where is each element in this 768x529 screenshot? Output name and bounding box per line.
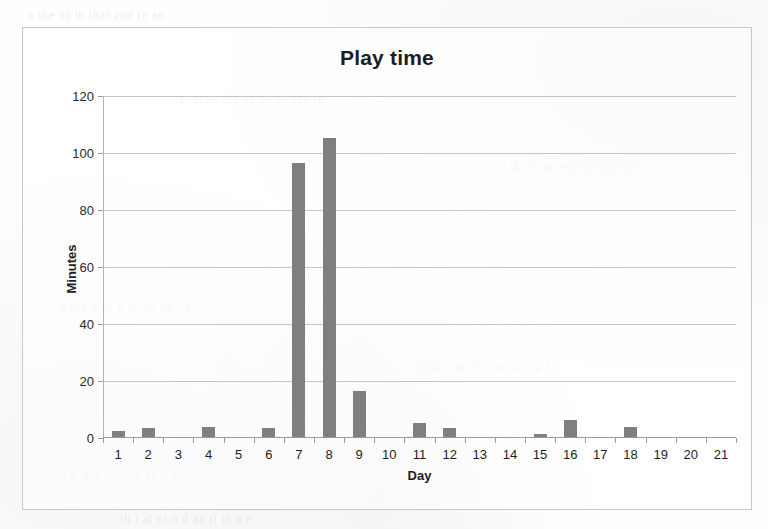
y-axis-tick-mark: [98, 96, 103, 97]
x-axis-tick-mark: [374, 438, 375, 443]
gridline: [103, 210, 736, 211]
bar[interactable]: [564, 420, 577, 437]
y-axis-label: Minutes: [64, 244, 79, 293]
x-axis-tick-label: 16: [563, 447, 577, 462]
bar[interactable]: [323, 138, 336, 437]
y-axis-tick-label: 120: [72, 89, 94, 104]
x-axis-tick-mark: [465, 438, 466, 443]
x-axis-tick-mark: [224, 438, 225, 443]
x-axis-tick-label: 11: [413, 447, 427, 462]
x-axis-tick-mark: [646, 438, 647, 443]
x-axis-tick-label: 12: [442, 447, 456, 462]
x-axis-tick-mark: [555, 438, 556, 443]
gridline: [103, 96, 736, 97]
x-axis-tick-mark: [314, 438, 315, 443]
gridline: [103, 381, 736, 382]
x-axis-tick-mark: [254, 438, 255, 443]
bar[interactable]: [413, 423, 426, 437]
x-axis-tick-label: 20: [684, 447, 698, 462]
bar[interactable]: [292, 163, 305, 437]
y-axis-tick-label: 40: [80, 317, 94, 332]
x-axis-tick-mark: [344, 438, 345, 443]
gridline: [103, 324, 736, 325]
bar[interactable]: [443, 428, 456, 437]
y-axis-tick-mark: [98, 267, 103, 268]
x-axis-tick-mark: [676, 438, 677, 443]
x-axis-tick-label: 19: [653, 447, 667, 462]
x-axis-tick-mark: [585, 438, 586, 443]
bar[interactable]: [624, 427, 637, 437]
chart-title: Play time: [23, 46, 751, 70]
x-axis-tick-label: 21: [714, 447, 728, 462]
x-axis-tick-label: 6: [265, 447, 272, 462]
y-axis-tick-label: 60: [80, 260, 94, 275]
gridline: [103, 153, 736, 154]
y-axis-tick-label: 20: [80, 374, 94, 389]
x-axis-line: [103, 437, 736, 438]
x-axis-tick-mark: [193, 438, 194, 443]
plot-area: 020406080100120 123456789101112131415161…: [103, 96, 736, 438]
y-axis-tick-mark: [98, 381, 103, 382]
x-axis-tick-label: 10: [382, 447, 396, 462]
bar[interactable]: [142, 428, 155, 437]
bar[interactable]: [534, 434, 547, 437]
x-axis-tick-label: 14: [503, 447, 517, 462]
bar[interactable]: [202, 427, 215, 437]
x-axis-tick-mark: [163, 438, 164, 443]
x-axis-tick-mark: [133, 438, 134, 443]
x-axis-tick-label: 9: [356, 447, 363, 462]
y-axis-tick-label: 100: [72, 146, 94, 161]
bar[interactable]: [112, 431, 125, 437]
bar[interactable]: [353, 391, 366, 437]
chart-frame: Play time Minutes 020406080100120 123456…: [22, 27, 752, 510]
y-axis-tick-mark: [98, 324, 103, 325]
x-axis-tick-label: 8: [325, 447, 332, 462]
x-axis-tick-mark: [103, 438, 104, 443]
scan-ghost-text: th i al ni o d an ti in a e: [120, 512, 252, 527]
scan-ghost-text: a the of in that and re an: [28, 8, 165, 23]
x-axis-tick-mark: [525, 438, 526, 443]
x-axis-tick-label: 13: [473, 447, 487, 462]
y-axis-tick-label: 0: [87, 431, 94, 446]
y-axis-tick-mark: [98, 210, 103, 211]
x-axis-tick-label: 2: [145, 447, 152, 462]
x-axis-label: Day: [103, 468, 736, 483]
x-axis-tick-label: 7: [295, 447, 302, 462]
x-axis-tick-mark: [404, 438, 405, 443]
x-axis-tick-label: 15: [533, 447, 547, 462]
x-axis-tick-label: 5: [235, 447, 242, 462]
gridline: [103, 267, 736, 268]
x-axis-tick-label: 3: [175, 447, 182, 462]
y-axis-tick-label: 80: [80, 203, 94, 218]
y-axis-tick-mark: [98, 153, 103, 154]
x-axis-tick-label: 18: [623, 447, 637, 462]
x-axis-tick-label: 17: [593, 447, 607, 462]
x-axis-tick-mark: [495, 438, 496, 443]
x-axis-tick-label: 1: [114, 447, 121, 462]
x-axis-tick-mark: [706, 438, 707, 443]
bar[interactable]: [262, 428, 275, 437]
x-axis-tick-mark: [736, 438, 737, 443]
x-axis-tick-mark: [284, 438, 285, 443]
x-axis-tick-label: 4: [205, 447, 212, 462]
x-axis-tick-mark: [615, 438, 616, 443]
x-axis-tick-mark: [435, 438, 436, 443]
